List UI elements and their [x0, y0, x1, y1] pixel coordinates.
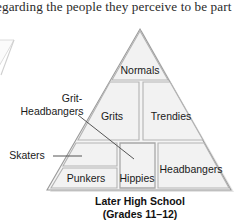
grit-headbangers-label-line1: Grit-: [62, 92, 83, 104]
skaters-callout-label: Skaters: [9, 149, 45, 161]
caption-line-1: Later High School: [95, 195, 185, 207]
pyramid-cell-hippies[interactable]: Hippies: [119, 143, 155, 188]
adjacent-figure-fragment: [0, 40, 14, 82]
grits-label: Grits: [101, 110, 123, 122]
caption-line-2: (Grades 11–12): [103, 208, 178, 220]
punkers-label: Punkers: [67, 172, 106, 184]
trendies-label: Trendies: [151, 110, 191, 122]
pyramid-cell-grits[interactable]: Grits: [78, 82, 139, 140]
pyramid-cell-skaters[interactable]: [63, 143, 117, 166]
normals-label: Normals: [120, 64, 159, 76]
pyramid-cell-normals[interactable]: Normals: [112, 31, 168, 80]
skaters-cell-shape: [63, 143, 117, 166]
grit-headbangers-label-line2: Headbangers: [20, 105, 83, 117]
headbangers-label: Headbangers: [159, 163, 222, 175]
figure-page: egarding the people they perceive to be …: [0, 0, 236, 224]
pyramid-cell-trendies[interactable]: Trendies: [143, 82, 203, 140]
figure-caption: Later High School (Grades 11–12): [95, 195, 185, 220]
pyramid-cell-headbangers[interactable]: Headbangers: [158, 143, 229, 188]
hippies-label: Hippies: [119, 172, 154, 184]
social-hierarchy-pyramid-diagram: Normals Grits Trendies Punkers Hippies: [0, 0, 236, 224]
pyramid-cell-punkers[interactable]: Punkers: [51, 168, 117, 188]
